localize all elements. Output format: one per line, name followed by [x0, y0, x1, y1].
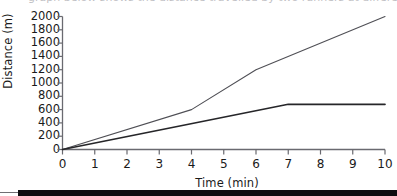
series-line-faster-runner	[63, 17, 386, 150]
plot-area	[0, 0, 397, 196]
distance-time-line-chart: Distance (m) 020040060080010001200140016…	[0, 0, 397, 196]
bottom-rule-lead	[0, 192, 19, 193]
series-line-slower-runner	[63, 104, 386, 149]
bottom-dark-rule	[18, 190, 397, 196]
